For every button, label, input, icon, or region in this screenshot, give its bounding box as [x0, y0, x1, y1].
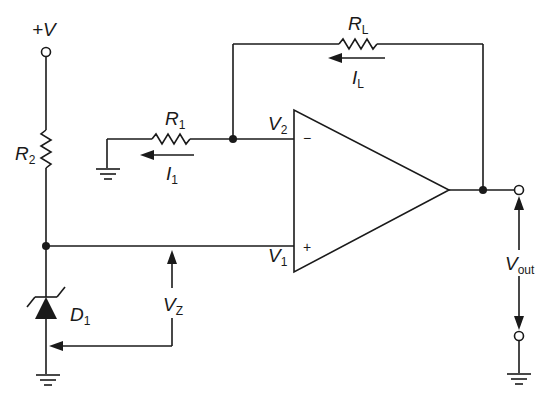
i1-label: I1 [166, 163, 178, 187]
ground-icon [96, 169, 120, 179]
output-terminal [515, 186, 524, 195]
junction-dot-output [479, 186, 487, 194]
output-ground-terminal [515, 332, 524, 341]
circuit-schematic: +V R2 D1 VZ R1 [0, 0, 550, 415]
vz-label: VZ [163, 294, 183, 318]
zener-diode-d1: D1 [27, 246, 91, 374]
noninverting-input-sign: + [303, 239, 311, 255]
ground-icon [507, 374, 531, 384]
op-amp: − + [294, 110, 449, 272]
il-current-arrow: IL [328, 53, 385, 91]
vout-voltage-arrow: Vout [505, 196, 535, 330]
ground-icon [36, 375, 60, 385]
r1-label: R1 [165, 108, 186, 132]
inverting-input-sign: − [303, 130, 311, 146]
resistor-r2: R2 [15, 57, 51, 246]
r2-label: R2 [15, 143, 36, 167]
resistor-r1: R1 [107, 108, 294, 168]
rl-label: RL [348, 13, 369, 37]
resistor-rl: RL [233, 13, 483, 190]
v2-label: V2 [268, 113, 288, 137]
v1-label: V1 [268, 245, 288, 269]
vout-label: Vout [505, 253, 535, 277]
i1-current-arrow: I1 [140, 150, 194, 187]
supply-label: +V [32, 19, 58, 40]
supply-terminal: +V [32, 19, 58, 57]
il-label: IL [352, 67, 364, 91]
d1-label: D1 [70, 304, 91, 328]
vz-voltage-arrow: VZ [49, 250, 183, 351]
